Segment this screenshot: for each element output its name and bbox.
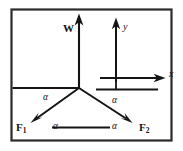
alpha-label-bottom-left: α [53,122,58,132]
force-1-vector [31,88,80,123]
alpha-label-upper-right: α [112,96,117,106]
force-1-label-subscript: 1 [23,126,27,135]
x-axis-label: x [169,69,173,79]
force-2-label-symbol: F [139,121,146,133]
figure-border [12,10,172,141]
force-2-label-subscript: 2 [146,126,150,135]
force-diagram-figure: W y x α α α α F1 F2 [0,0,183,151]
diagram-canvas [0,0,183,151]
coordinate-axes [100,18,166,83]
weight-vector-label: W [63,23,74,34]
y-axis-label: y [123,22,127,32]
force-1-label-symbol: F [16,121,23,133]
force-2-vector [79,88,133,123]
force-2-label: F2 [139,122,149,133]
alpha-label-upper-left: α [43,93,48,103]
alpha-label-bottom-right: α [112,122,117,132]
weight-vector [75,14,84,89]
force-1-label: F1 [16,122,26,133]
